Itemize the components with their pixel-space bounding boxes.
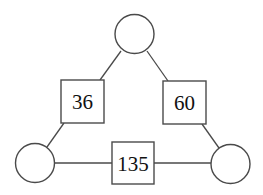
box-right: 60 xyxy=(163,81,206,124)
circle-top xyxy=(115,15,154,54)
circle-bottom-right xyxy=(211,145,250,184)
box-bottom-label: 135 xyxy=(117,152,149,176)
edge-left-box-to-bottom-left xyxy=(47,123,64,147)
box-bottom: 135 xyxy=(112,142,154,184)
box-left: 36 xyxy=(61,80,104,123)
edge-top-to-right-box xyxy=(147,51,168,81)
box-right-label: 60 xyxy=(174,91,195,115)
edge-right-box-to-bottom-right xyxy=(202,124,219,148)
box-left-label: 36 xyxy=(72,90,93,114)
circle-bottom-left xyxy=(16,144,55,183)
edge-top-to-left-box xyxy=(100,51,121,80)
number-triangle-diagram: 36 60 135 xyxy=(0,0,263,195)
